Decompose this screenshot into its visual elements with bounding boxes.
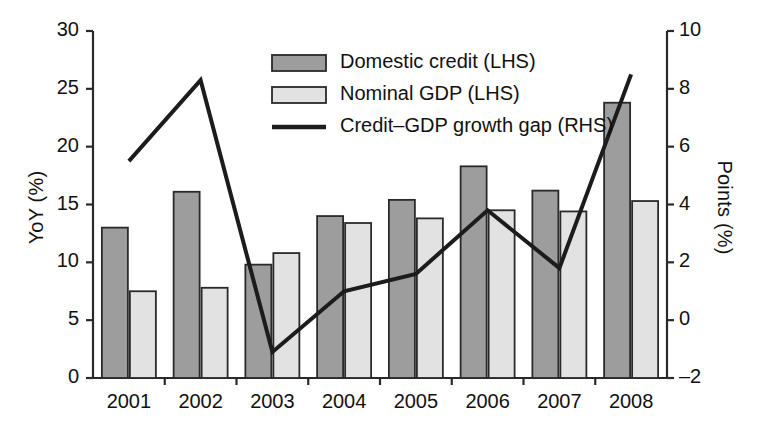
bar-domestic-credit [174,192,200,378]
bar-domestic-credit [102,228,128,378]
bar-nominal-gdp [345,223,371,378]
bars-group [102,103,658,378]
bar-nominal-gdp [130,291,156,378]
bar-nominal-gdp [560,211,586,378]
bar-domestic-credit [245,265,271,378]
legend-item-label: Nominal GDP (LHS) [340,82,520,105]
bar-domestic-credit [532,191,558,378]
bar-nominal-gdp [202,288,228,378]
bar-domestic-credit [604,103,630,378]
legend-marker-domestic-credit [272,55,326,71]
legend-marker-nominal-gdp [272,87,326,103]
bar-domestic-credit [461,166,487,378]
bar-domestic-credit [389,200,415,378]
bar-nominal-gdp [273,253,299,378]
legend-item-label: Domestic credit (LHS) [340,50,536,73]
bar-nominal-gdp [417,218,443,378]
legend-item-label: Credit–GDP growth gap (RHS) [340,114,613,137]
bar-nominal-gdp [489,210,515,378]
legend-markers-group [272,55,326,127]
chart-figure: YoY (%) Points (%) 051015202530–20246810… [0,0,760,437]
bar-nominal-gdp [632,201,658,378]
